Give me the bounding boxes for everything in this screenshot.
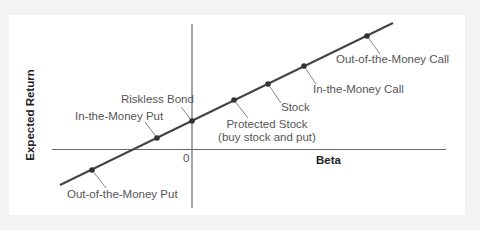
marker-otm-call (364, 33, 370, 39)
label-riskless: Riskless Bond (121, 93, 194, 106)
marker-itm-call (301, 63, 307, 69)
y-axis-title: Expected Return (24, 69, 36, 160)
origin-label: 0 (183, 152, 189, 165)
x-axis-title: Beta (316, 154, 341, 166)
leader-otm-call (367, 36, 380, 54)
leader-itm-put (145, 122, 157, 138)
label-protected-title: Protected Stock (217, 118, 317, 131)
leader-stock (268, 84, 281, 103)
label-otm-call: Out-of-the-Money Call (336, 53, 449, 66)
label-protected: Protected Stock (buy stock and put) (217, 118, 317, 144)
leader-protected (234, 100, 248, 118)
label-stock: Stock (281, 101, 310, 114)
label-protected-sub: (buy stock and put) (217, 131, 317, 144)
marker-itm-put (154, 135, 160, 141)
security-market-line (60, 23, 393, 185)
marker-stock (265, 81, 271, 87)
label-itm-put: In-the-Money Put (75, 110, 163, 123)
marker-protected (231, 97, 237, 103)
leader-otm-put (92, 170, 106, 188)
marker-otm-put (89, 167, 95, 173)
label-otm-put: Out-of-the-Money Put (67, 188, 178, 201)
leader-itm-call (304, 66, 316, 84)
label-itm-call: In-the-Money Call (313, 83, 404, 96)
marker-riskless (189, 118, 195, 124)
